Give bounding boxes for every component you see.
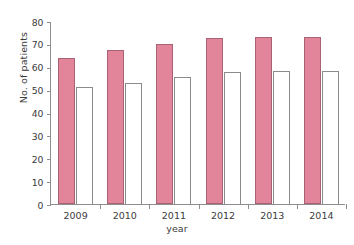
x-axis-tick-label-2014: 2014 — [294, 210, 348, 221]
x-axis-tick-label-2013: 2013 — [245, 210, 299, 221]
y-axis-tick: 40 — [47, 114, 52, 115]
bar-2010-series-2 — [125, 83, 142, 204]
x-axis-tick-label-2009: 2009 — [49, 210, 103, 221]
y-axis-tick-label: 0 — [38, 200, 44, 211]
y-axis-tick: 70 — [47, 45, 52, 46]
x-axis-tick-label-2010: 2010 — [98, 210, 152, 221]
bar-2013-series-1 — [255, 37, 272, 204]
x-axis-title: year — [0, 223, 354, 234]
y-axis-tick: 0 — [47, 205, 52, 206]
x-axis-tick — [297, 204, 298, 209]
x-axis-tick — [100, 204, 101, 209]
y-axis-tick-label: 60 — [32, 62, 44, 73]
y-axis-tick-label: 50 — [32, 85, 44, 96]
y-axis-title: No. of patients — [18, 3, 29, 133]
bar-2011-series-1 — [156, 44, 173, 204]
x-axis-tick — [346, 204, 347, 209]
y-axis-tick: 30 — [47, 136, 52, 137]
y-axis-tick: 60 — [47, 68, 52, 69]
bar-2010-series-1 — [107, 50, 124, 204]
y-axis-tick-label: 40 — [32, 108, 44, 119]
y-axis-tick: 10 — [47, 182, 52, 183]
y-axis-tick-label: 30 — [32, 131, 44, 142]
x-axis-tick — [199, 204, 200, 209]
y-axis-tick: 50 — [47, 91, 52, 92]
bar-2009-series-1 — [58, 58, 75, 204]
bar-2013-series-2 — [273, 71, 290, 204]
y-axis-tick-label: 10 — [32, 177, 44, 188]
bar-2014-series-2 — [322, 71, 339, 204]
bar-2014-series-1 — [304, 37, 321, 204]
x-axis-tick-label-2011: 2011 — [147, 210, 201, 221]
plot-area: 0102030405060708020092010201120122013201… — [50, 22, 345, 205]
x-axis-tick — [149, 204, 150, 209]
y-axis-tick-label: 70 — [32, 39, 44, 50]
x-axis-tick — [248, 204, 249, 209]
y-axis-tick-label: 80 — [32, 17, 44, 28]
bar-2012-series-1 — [206, 38, 223, 204]
bar-2009-series-2 — [76, 87, 93, 204]
bar-2011-series-2 — [174, 77, 191, 204]
y-axis-tick: 20 — [47, 159, 52, 160]
bar-2012-series-2 — [224, 72, 241, 204]
x-axis-tick-label-2012: 2012 — [196, 210, 250, 221]
bar-chart: No. of patients 010203040506070802009201… — [0, 0, 354, 245]
y-axis-tick-label: 20 — [32, 154, 44, 165]
y-axis-tick: 80 — [47, 22, 52, 23]
